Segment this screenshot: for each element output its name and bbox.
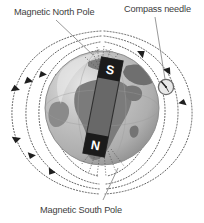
- label-magnetic-north-pole: Magnetic North Pole: [14, 8, 94, 17]
- label-magnetic-south-pole: Magnetic South Pole: [40, 206, 122, 215]
- magnetic-earth-diagram: S N Magnetic North Pole Compass needle M…: [0, 0, 204, 223]
- leader-line-north-pole: [56, 20, 93, 55]
- compass-needle[interactable]: [158, 79, 173, 94]
- leader-line-compass: [155, 17, 165, 79]
- compass-pivot: [165, 86, 167, 88]
- field-arrow-icon: [178, 98, 188, 106]
- diagram-canvas: S N: [0, 0, 204, 223]
- field-arrow-icon: [46, 168, 56, 177]
- leader-line-south-pole: [103, 168, 118, 200]
- field-arrow-icon: [10, 84, 20, 91]
- field-arrow-icon: [37, 69, 47, 77]
- label-compass-needle: Compass needle: [124, 5, 191, 14]
- field-arrow-icon: [11, 137, 21, 144]
